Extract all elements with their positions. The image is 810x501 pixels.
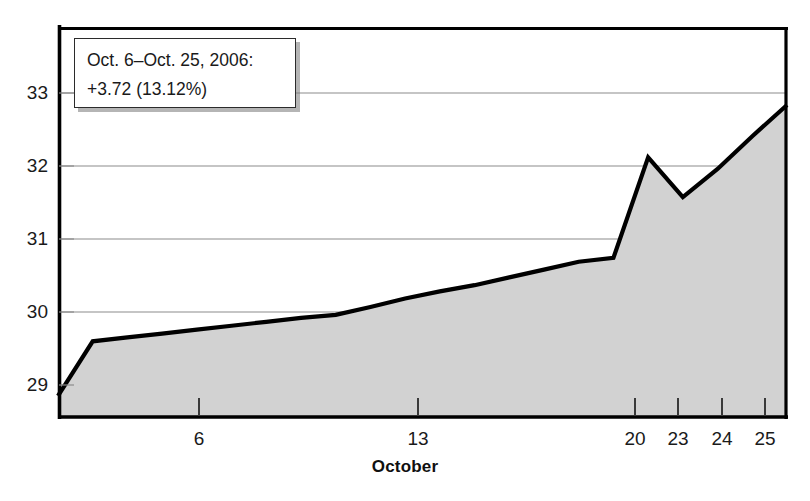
y-tick-label-33: 33 [4,82,48,104]
callout-change-line: +3.72 (13.12%) [87,75,295,104]
callout-period-line: Oct. 6–Oct. 25, 2006: [87,46,295,75]
y-tick-label-31: 31 [4,228,48,250]
x-tick-label-25: 25 [735,428,795,450]
y-tick-label-32: 32 [4,155,48,177]
y-tick-label-30: 30 [4,301,48,323]
performance-callout-box: Oct. 6–Oct. 25, 2006: +3.72 (13.12%) [74,38,296,108]
x-tick-label-6: 6 [169,428,229,450]
y-tick-label-29: 29 [4,374,48,396]
chart-figure: 33 32 31 30 29 6 13 20 23 24 25 October … [0,0,810,501]
x-tick-label-13: 13 [388,428,448,450]
x-axis-title: October [0,457,810,477]
